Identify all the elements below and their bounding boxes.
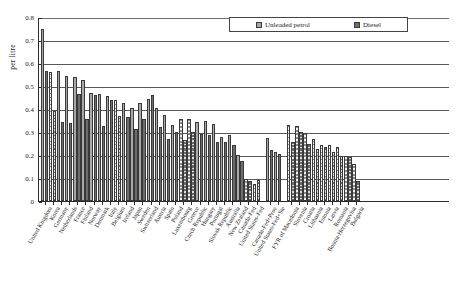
bar-unleaded-petrol [274,152,277,201]
y-tick-label: 0.2 [25,152,34,160]
bar-group [295,18,303,201]
bar-group [266,18,274,201]
bar-diesel [94,95,97,201]
bar-unleaded-petrol [187,119,190,201]
bar-diesel [340,156,343,201]
x-tick-label: United Kingdom [26,205,53,245]
y-tick-label: 0 [31,198,35,206]
bar-diesel [61,122,64,201]
bar-group [98,18,106,201]
bar-diesel [216,142,219,201]
bar-diesel [356,181,359,201]
bar-diesel [45,71,48,201]
bar-group [163,18,171,201]
bar-group [57,18,65,201]
y-axis-label: per litre [8,22,17,92]
bar-unleaded-petrol [130,108,133,201]
y-tick-label: 0.4 [25,106,34,114]
bar-unleaded-petrol [114,100,117,201]
y-tick-label: 0.3 [25,129,34,137]
bar-group [81,18,89,201]
bar-unleaded-petrol [336,147,339,201]
bar-group [147,18,155,201]
bar-unleaded-petrol [106,96,109,201]
bar-group [303,18,311,201]
legend-item-diesel: Diesel [354,21,381,29]
bar-unleaded-petrol [65,76,68,201]
bar-unleaded-petrol [49,72,52,201]
bar-diesel [278,154,281,201]
bar-unleaded-petrol [244,179,247,201]
y-tick-label: 0.7 [25,37,34,45]
legend-label-unleaded-petrol: Unleaded petrol [265,21,310,29]
bar-group [274,18,282,201]
bar-diesel [200,134,203,201]
bar-unleaded-petrol [303,133,306,201]
bar-unleaded-petrol [155,108,158,201]
bar-diesel [257,180,260,201]
bar-group [244,18,252,201]
bar-unleaded-petrol [228,135,231,201]
y-tick-label: 0.5 [25,83,34,91]
bar-diesel [110,100,113,201]
bar-unleaded-petrol [344,156,347,201]
bar-diesel [77,94,80,201]
bar-unleaded-petrol [253,184,256,201]
bar-unleaded-petrol [287,125,290,201]
bar-diesel [151,95,154,201]
bar-unleaded-petrol [89,93,92,201]
bar-diesel [240,161,243,201]
bar-group [352,18,360,201]
bar-group [122,18,130,201]
bar-unleaded-petrol [320,145,323,201]
bar-group [220,18,228,201]
bar-unleaded-petrol [295,126,298,201]
bar-diesel [69,123,72,201]
bar-unleaded-petrol [138,103,141,201]
bar-unleaded-petrol [204,121,207,202]
bar-unleaded-petrol [195,122,198,201]
bar-group [312,18,320,201]
bar-group [89,18,97,201]
bar-diesel [142,119,145,201]
bar-diesel [183,140,186,201]
bar-group [114,18,122,201]
bar-diesel [248,181,251,201]
bar-diesel [348,157,351,201]
bar-series-container [39,18,449,201]
y-tick-label: 0.1 [25,175,34,183]
bar-diesel [175,132,178,201]
chart-legend: Unleaded petrol Diesel [229,17,408,32]
bar-diesel [270,150,273,201]
bar-unleaded-petrol [312,139,315,201]
bar-group [155,18,163,201]
bar-unleaded-petrol [171,125,174,201]
bar-group [49,18,57,201]
plot-area: 00.10.20.30.40.50.60.70.8 [38,18,449,202]
bar-diesel [316,149,319,201]
bar-unleaded-petrol [236,155,239,201]
bar-unleaded-petrol [57,71,60,201]
bar-diesel [102,126,105,201]
fuel-tax-bar-chart: per litre 00.10.20.30.40.50.60.70.8 Unit… [0,0,457,295]
bar-diesel [307,144,310,202]
bar-group [228,18,236,201]
bar-group [344,18,352,201]
bar-group [106,18,114,201]
bar-group [236,18,244,201]
bar-group [212,18,220,201]
bar-unleaded-petrol [328,145,331,201]
bar-diesel [53,111,56,201]
legend-item-unleaded-petrol: Unleaded petrol [256,21,310,29]
bar-group [328,18,336,201]
bar-unleaded-petrol [163,115,166,201]
y-tick-label: 0.6 [25,60,34,68]
bar-unleaded-petrol [98,94,101,201]
bar-group [320,18,328,201]
bar-unleaded-petrol [266,138,269,201]
bar-unleaded-petrol [122,103,125,201]
bar-unleaded-petrol [41,29,44,202]
legend-swatch-unleaded-petrol [256,22,262,28]
bar-group [253,18,261,201]
bar-diesel [134,129,137,201]
